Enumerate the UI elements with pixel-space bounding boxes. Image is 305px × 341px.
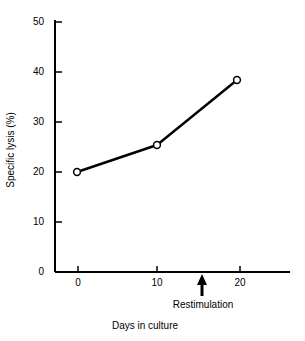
y-tick-label-40: 40: [20, 67, 44, 77]
restimulation-label: Restimulation: [173, 299, 234, 310]
y-tick-label-0: 0: [20, 267, 44, 277]
data-point-marker: [154, 142, 161, 149]
x-tick-label-20: 20: [234, 278, 245, 288]
y-axis-title: Specific lysis (%): [5, 112, 16, 188]
chart-figure: 0 10 20 30 40 50 0 10 20 Specific lysis …: [0, 0, 305, 341]
restimulation-arrow-icon: [197, 274, 207, 296]
y-tick-label-20: 20: [20, 167, 44, 177]
data-point-marker: [74, 169, 81, 176]
line-chart-plot: [0, 0, 305, 341]
y-axis-ticks: [55, 22, 62, 272]
y-tick-label-50: 50: [20, 17, 44, 27]
data-point-marker: [234, 77, 241, 84]
data-line-specific-lysis: [77, 80, 237, 172]
y-tick-label-30: 30: [20, 117, 44, 127]
data-point-markers: [74, 77, 241, 176]
x-tick-label-0: 0: [75, 278, 81, 288]
x-tick-label-10: 10: [151, 278, 162, 288]
y-tick-label-10: 10: [20, 217, 44, 227]
x-axis-title: Days in culture: [112, 320, 178, 331]
